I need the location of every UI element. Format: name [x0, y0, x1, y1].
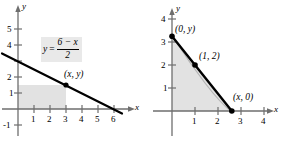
- right-x-axis-arrow: [267, 108, 274, 113]
- right-y-tick-2: 2: [161, 61, 166, 70]
- left-shaded-rectangle: [18, 85, 66, 109]
- left-y-axis-arrow: [15, 5, 20, 12]
- left-point-label-x-y: (x, y): [64, 70, 84, 80]
- right-y-tick-1: 1: [163, 84, 168, 93]
- right-x-axis-label: x: [274, 105, 278, 114]
- right-point-label-0-y: (0, y): [175, 25, 195, 35]
- right-y-axis-arrow: [169, 8, 174, 15]
- left-y-tick-neg-1: -1: [3, 121, 11, 130]
- left-x-tick-2: 2: [47, 115, 52, 124]
- left-x-axis-arrow: [128, 106, 135, 111]
- equation-numerator: 6 − x: [57, 38, 79, 50]
- left-point-x-y-marker: [63, 82, 68, 87]
- right-point-0-y-marker: [169, 34, 175, 40]
- right-point-label-1-2: (1, 2): [199, 52, 220, 62]
- left-graph-panel: y x 5 4 2 1 -1 1 2 3 4 5 6 (x, y) y = 6 …: [0, 0, 143, 143]
- left-x-axis-label: x: [135, 103, 139, 112]
- right-y-tick-3: 3: [161, 38, 166, 47]
- left-y-tick-5: 5: [7, 25, 12, 34]
- right-point-x-0-marker: [229, 108, 235, 114]
- equation-equals-sign: =: [49, 44, 54, 54]
- equation-fraction: 6 − x 2: [57, 38, 79, 60]
- left-x-tick-1: 1: [31, 115, 36, 124]
- left-x-tick-5: 5: [95, 115, 100, 124]
- left-y-tick-1: 1: [9, 89, 14, 98]
- right-x-tick-1: 1: [192, 117, 197, 126]
- right-point-label-x-0: (x, 0): [233, 93, 253, 103]
- right-x-tick-4: 4: [261, 117, 266, 126]
- equation-denominator: 2: [64, 50, 71, 61]
- figure-two-line-graphs: y x 5 4 2 1 -1 1 2 3 4 5 6 (x, y) y = 6 …: [0, 0, 285, 143]
- left-x-tick-3: 3: [63, 115, 68, 124]
- left-x-tick-6: 6: [111, 115, 116, 124]
- left-y-tick-2: 2: [7, 73, 12, 82]
- left-y-tick-4: 4: [7, 41, 12, 50]
- left-y-axis-label: y: [22, 2, 26, 11]
- left-x-tick-4: 4: [79, 115, 84, 124]
- right-y-axis-label: y: [176, 4, 180, 13]
- right-y-tick-4: 4: [161, 15, 166, 24]
- right-graph-panel: y x 4 3 2 1 1 2 3 4 (0, y) (1, 2) (x, 0): [143, 0, 285, 143]
- equation-label: y = 6 − x 2: [41, 37, 82, 62]
- equation-lhs: y: [43, 44, 47, 54]
- right-x-tick-2: 2: [215, 117, 220, 126]
- right-x-tick-3: 3: [238, 117, 243, 126]
- right-point-1-2-marker: [192, 62, 198, 68]
